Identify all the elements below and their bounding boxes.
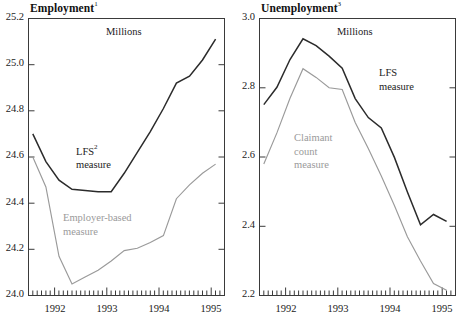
employment-unemployment-figure: Employment1: [0, 0, 462, 329]
lfs-measure-label-line1: LFS: [379, 67, 397, 78]
employer-based-measure-label: Employer-based measure: [63, 211, 132, 238]
ytick-label: 2.4: [231, 219, 255, 230]
xtick-label: 1993: [87, 303, 127, 314]
units-label-millions: Millions: [106, 26, 142, 37]
ytick-label: 24.8: [0, 103, 24, 114]
ytick-label: 2.2: [231, 288, 255, 299]
xtick-label: 1994: [139, 303, 179, 314]
ytick-label: 25.2: [0, 11, 24, 22]
units-label-millions: Millions: [337, 26, 373, 37]
ytick-label: 3.0: [231, 11, 255, 22]
plot-frame: [29, 19, 225, 296]
ytick-label: 2.8: [231, 80, 255, 91]
plot-area-unemployment: [231, 0, 462, 329]
xtick-label: 1992: [35, 303, 75, 314]
claimant-count-measure-label-line1: Claimant: [294, 132, 333, 143]
series-line-claimant-count: [264, 69, 447, 291]
xtick-label: 1993: [318, 303, 358, 314]
lfs-measure-label-superscript: 2: [94, 143, 98, 151]
lfs-measure-label-line2: measure: [76, 159, 111, 170]
xtick-label: 1995: [191, 303, 231, 314]
plot-area-employment: [0, 0, 231, 329]
ytick-label: 24.0: [0, 288, 24, 299]
ytick-label: 24.4: [0, 196, 24, 207]
claimant-count-measure-label-line3: measure: [294, 159, 329, 170]
lfs-measure-label-line2: measure: [379, 81, 414, 92]
ytick-label: 24.6: [0, 149, 24, 160]
lfs-measure-label-line1: LFS: [76, 146, 94, 157]
lfs-measure-label: LFS2 measure: [76, 142, 111, 172]
series-line-lfs: [33, 39, 216, 192]
xtick-label: 1992: [266, 303, 306, 314]
x-axis-ticks: [264, 288, 451, 296]
lfs-measure-label: LFS measure: [379, 66, 414, 93]
xtick-label: 1995: [422, 303, 462, 314]
employer-based-measure-label-line2: measure: [63, 226, 98, 237]
y-axis-ticks: [29, 19, 225, 296]
plot-frame: [260, 19, 456, 296]
y-axis-ticks: [260, 19, 456, 296]
ytick-label: 24.2: [0, 242, 24, 253]
claimant-count-measure-label: Claimant count measure: [294, 131, 333, 172]
x-axis-ticks: [33, 288, 220, 296]
ytick-label: 2.6: [231, 149, 255, 160]
series-line-lfs: [264, 39, 447, 225]
employer-based-measure-label-line1: Employer-based: [63, 212, 132, 223]
claimant-count-measure-label-line2: count: [294, 146, 317, 157]
panel-employment: Employment1: [0, 0, 231, 329]
panel-unemployment: Unemployment3: [231, 0, 462, 329]
ytick-label: 25.0: [0, 57, 24, 68]
xtick-label: 1994: [370, 303, 410, 314]
